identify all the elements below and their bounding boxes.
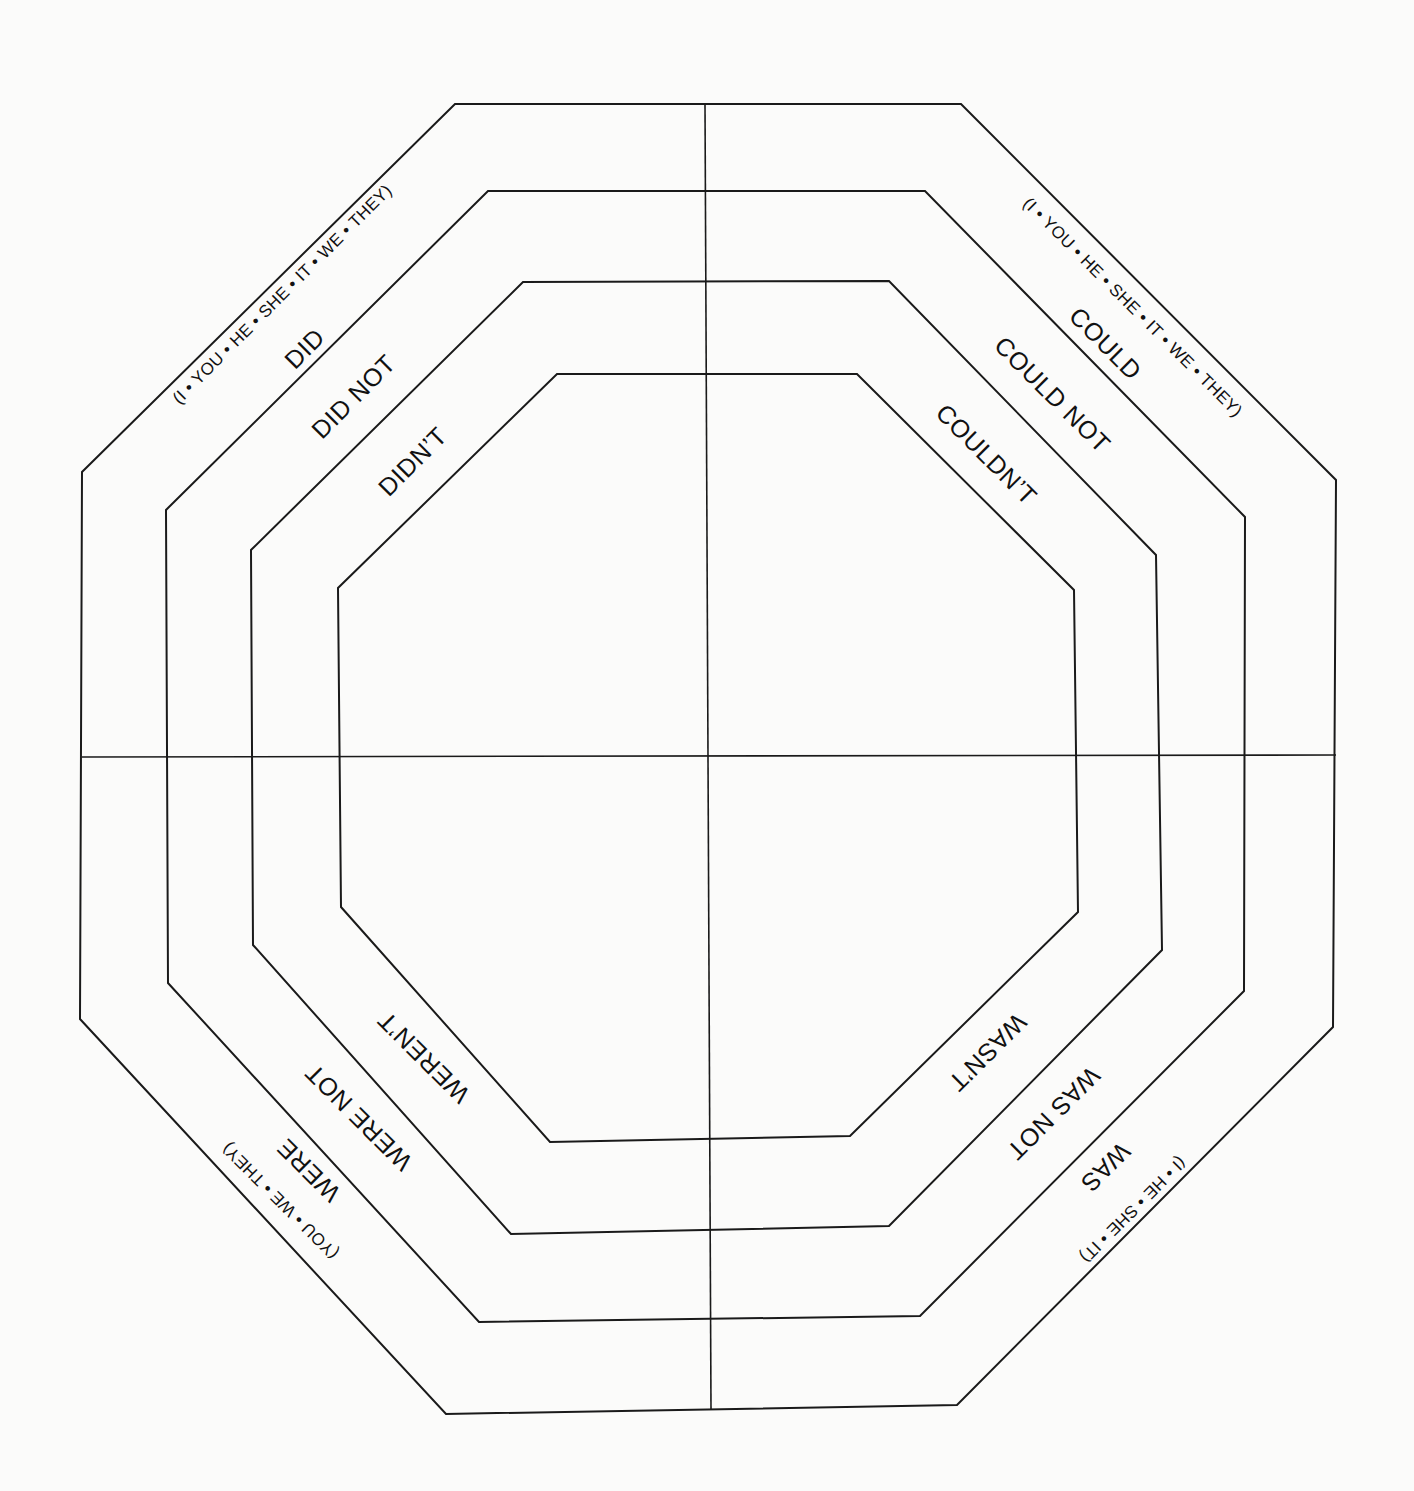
label-was-not: WAS NOT <box>1002 1062 1106 1166</box>
label-was: WAS <box>1075 1137 1135 1197</box>
label-did: DID <box>279 323 330 374</box>
verb-octagon-diagram: (I • YOU • HE • SHE • IT • WE • THEY) DI… <box>0 0 1414 1491</box>
label-did-not: DID NOT <box>306 349 401 444</box>
quadrant-top-right: (I • YOU • HE • SHE • IT • WE • THEY) CO… <box>931 194 1246 510</box>
label-were-not: WERE NOT <box>299 1059 417 1177</box>
horizontal-divider <box>82 755 1336 757</box>
label-wasnt: WASN’T <box>943 1008 1032 1097</box>
vertical-divider <box>705 104 711 1410</box>
quadrant-bottom-left: (YOU • WE • THEY) WERE WERE NOT WEREN’T <box>218 1006 474 1262</box>
label-couldnt: COULDN’T <box>931 398 1043 510</box>
label-werent: WEREN’T <box>372 1006 475 1109</box>
quadrant-top-left: (I • YOU • HE • SHE • IT • WE • THEY) DI… <box>169 181 452 501</box>
